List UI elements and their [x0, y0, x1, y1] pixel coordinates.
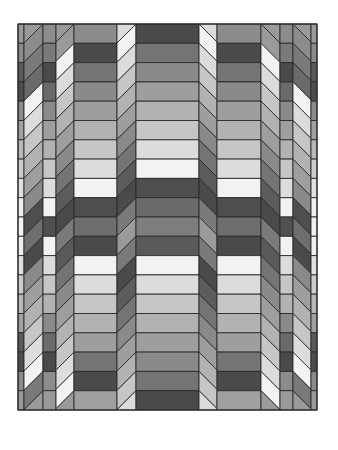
band-right-patch	[217, 217, 261, 236]
band-left-patch	[74, 391, 117, 410]
band-left-patch	[74, 314, 117, 333]
edge-right-patch	[311, 314, 317, 333]
band-center-patch	[136, 256, 199, 275]
band-center-patch	[136, 236, 199, 255]
edge-left-patch	[18, 236, 24, 255]
band-left-patch	[74, 198, 117, 217]
band-center-patch	[136, 121, 199, 140]
band-center-patch	[136, 333, 199, 352]
band-center-patch	[136, 275, 199, 294]
band-left-patch	[74, 82, 117, 101]
strip-left-patch	[43, 217, 56, 236]
edge-left-patch	[18, 294, 24, 313]
strip-left-patch	[43, 24, 56, 43]
band-center-patch	[136, 352, 199, 371]
band-right-patch	[217, 333, 261, 352]
band-right-patch	[217, 82, 261, 101]
edge-left-patch	[18, 217, 24, 236]
strip-left-patch	[43, 159, 56, 178]
band-right-patch	[217, 294, 261, 313]
band-center-patch	[136, 217, 199, 236]
band-right-patch	[217, 178, 261, 197]
edge-right-patch	[311, 217, 317, 236]
band-right-patch	[217, 43, 261, 62]
band-left-patch	[74, 333, 117, 352]
band-left-patch	[74, 294, 117, 313]
strip-left-patch	[43, 391, 56, 410]
band-right-patch	[217, 275, 261, 294]
edge-left-patch	[18, 140, 24, 159]
strip-right-patch	[280, 121, 293, 140]
strip-left-patch	[43, 256, 56, 275]
edge-right-patch	[311, 43, 317, 62]
band-center-patch	[136, 101, 199, 120]
band-center-patch	[136, 159, 199, 178]
band-center-patch	[136, 63, 199, 82]
edge-left-patch	[18, 63, 24, 82]
strip-right-patch	[280, 198, 293, 217]
band-center-patch	[136, 391, 199, 410]
strip-right-patch	[280, 82, 293, 101]
band-left-patch	[74, 140, 117, 159]
strip-right-patch	[280, 159, 293, 178]
band-right-patch	[217, 24, 261, 43]
edge-left-patch	[18, 121, 24, 140]
edge-left-patch	[18, 275, 24, 294]
strip-left-patch	[43, 314, 56, 333]
band-center-patch	[136, 198, 199, 217]
edge-right-patch	[311, 121, 317, 140]
strip-right-patch	[280, 352, 293, 371]
strip-right-patch	[280, 294, 293, 313]
edge-right-patch	[311, 159, 317, 178]
edge-left-patch	[18, 371, 24, 390]
strip-left-patch	[43, 43, 56, 62]
edge-right-patch	[311, 178, 317, 197]
edge-left-patch	[18, 82, 24, 101]
edge-left-patch	[18, 352, 24, 371]
edge-left-patch	[18, 314, 24, 333]
strip-right-patch	[280, 217, 293, 236]
edge-right-patch	[311, 82, 317, 101]
band-left-patch	[74, 352, 117, 371]
strip-left-patch	[43, 140, 56, 159]
band-left-patch	[74, 43, 117, 62]
edge-right-patch	[311, 391, 317, 410]
edge-right-patch	[311, 333, 317, 352]
band-right-patch	[217, 256, 261, 275]
edge-right-patch	[311, 352, 317, 371]
band-right-patch	[217, 63, 261, 82]
strip-right-patch	[280, 371, 293, 390]
band-right-patch	[217, 236, 261, 255]
band-center-patch	[136, 140, 199, 159]
edge-right-patch	[311, 101, 317, 120]
edge-left-patch	[18, 178, 24, 197]
edge-right-patch	[311, 140, 317, 159]
band-center-patch	[136, 24, 199, 43]
band-left-patch	[74, 24, 117, 43]
strip-right-patch	[280, 236, 293, 255]
edge-left-patch	[18, 101, 24, 120]
band-left-patch	[74, 101, 117, 120]
strip-right-patch	[280, 63, 293, 82]
edge-left-patch	[18, 256, 24, 275]
band-center-patch	[136, 314, 199, 333]
strip-left-patch	[43, 333, 56, 352]
edge-right-patch	[311, 198, 317, 217]
strip-right-patch	[280, 256, 293, 275]
band-right-patch	[217, 352, 261, 371]
edge-right-patch	[311, 294, 317, 313]
strip-right-patch	[280, 101, 293, 120]
edge-right-patch	[311, 371, 317, 390]
band-right-patch	[217, 391, 261, 410]
band-left-patch	[74, 275, 117, 294]
band-right-patch	[217, 121, 261, 140]
strip-left-patch	[43, 121, 56, 140]
band-center-patch	[136, 178, 199, 197]
strip-right-patch	[280, 178, 293, 197]
strip-right-patch	[280, 140, 293, 159]
band-center-patch	[136, 294, 199, 313]
band-center-patch	[136, 43, 199, 62]
strip-left-patch	[43, 275, 56, 294]
band-right-patch	[217, 101, 261, 120]
band-left-patch	[74, 159, 117, 178]
